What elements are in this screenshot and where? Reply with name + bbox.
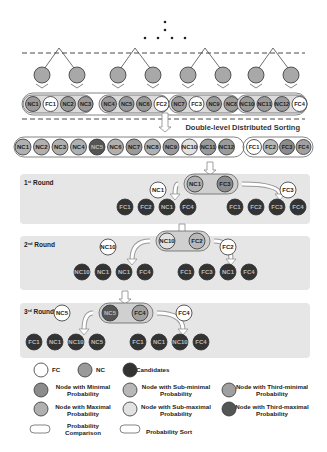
svg-text:NC5: NC5: [91, 339, 104, 345]
candidate-node: FC2: [248, 199, 264, 215]
svg-text:NC3: NC3: [80, 101, 91, 107]
svg-text:FC4: FC4: [134, 310, 146, 316]
tree-node: [69, 67, 85, 83]
svg-text:FC3: FC3: [201, 269, 213, 275]
candidate-node: FC4: [193, 334, 209, 350]
tree-edge: [188, 48, 223, 72]
sorted-node-nc5: NC5: [89, 139, 105, 155]
tree-node: [248, 67, 264, 83]
compare-node: NC10: [159, 233, 175, 249]
legend-comparison-label: Probability Comparison: [60, 422, 106, 437]
svg-text:FC2: FC2: [250, 204, 262, 210]
svg-text:NC2: NC2: [35, 144, 48, 150]
top-node-nc2: NC2: [61, 97, 76, 112]
candidate-node: FC4: [137, 264, 153, 280]
svg-text:NC1: NC1: [161, 204, 174, 210]
legend-comparison-icon: [30, 425, 50, 433]
svg-text:NC1: NC1: [27, 101, 38, 107]
top-node-nc7: NC7: [172, 97, 187, 112]
left-pick-node: NC5: [54, 305, 70, 321]
sorted-node-nc8: NC8: [145, 139, 161, 155]
svg-text:NC1: NC1: [118, 269, 131, 275]
top-node-fc2: FC2: [154, 97, 169, 112]
svg-text:FC4: FC4: [182, 204, 194, 210]
svg-text:NC2: NC2: [62, 101, 73, 107]
svg-text:NC10: NC10: [100, 244, 116, 250]
sorted-node-nc1: NC1: [15, 139, 31, 155]
candidate-node: FC3: [199, 264, 215, 280]
svg-text:NC5: NC5: [91, 144, 104, 150]
svg-text:FC1: FC1: [229, 204, 241, 210]
svg-text:NC1: NC1: [153, 339, 166, 345]
sorted-node-fc3: FC3: [280, 140, 295, 155]
svg-text:NC5: NC5: [104, 310, 117, 316]
svg-text:NC10: NC10: [68, 339, 84, 345]
svg-text:NC10: NC10: [74, 269, 90, 275]
compare-node: FC4: [132, 305, 148, 321]
svg-text:NC6: NC6: [109, 144, 122, 150]
right-pick-node: FC3: [280, 182, 296, 198]
svg-text:FC4: FC4: [243, 269, 255, 275]
top-node-nc1: NC1: [26, 97, 41, 112]
svg-text:FC4: FC4: [298, 144, 309, 150]
svg-text:FC4: FC4: [294, 101, 305, 107]
svg-text:FC3: FC3: [271, 204, 283, 210]
svg-text:NC4: NC4: [72, 144, 85, 150]
candidate-node: FC1: [178, 264, 194, 280]
left-pick-node: NC1: [150, 182, 166, 198]
legend-submax-label: Node with Sub-maximal Probability: [138, 403, 214, 418]
svg-text:FC4: FC4: [195, 339, 207, 345]
svg-text:NC11: NC11: [257, 101, 271, 107]
legend-submin-icon: [123, 383, 137, 397]
svg-text:NC4: NC4: [103, 101, 115, 107]
compare-node: NC5: [102, 305, 118, 321]
candidate-node: FC1: [227, 199, 243, 215]
sorted-node-fc2: FC2: [263, 140, 278, 155]
candidate-node: FC2: [138, 199, 154, 215]
candidate-node: NC10: [74, 264, 90, 280]
candidate-node: FC4: [290, 199, 306, 215]
top-node-nc9: NC9: [207, 97, 222, 112]
tree-node: [110, 67, 126, 83]
legend-candidates-label: Candidates: [136, 366, 169, 373]
svg-text:NC10: NC10: [172, 339, 188, 345]
ellipsis-dot: [144, 37, 147, 40]
candidate-node: NC1: [159, 199, 175, 215]
candidate-node: FC1: [130, 334, 146, 350]
svg-text:FC2: FC2: [265, 144, 276, 150]
legend-max-label: Node with Maximal Probability: [48, 403, 118, 418]
svg-text:FC1: FC1: [180, 269, 192, 275]
compare-node: FC3: [217, 176, 233, 192]
round-down-arrow-icon: [204, 162, 216, 175]
tree-node: [180, 67, 196, 83]
legend-fc-icon: [34, 363, 48, 377]
svg-text:NC6: NC6: [138, 101, 149, 107]
candidate-node: NC1: [220, 264, 236, 280]
svg-text:FC1: FC1: [119, 204, 131, 210]
top-node-fc4: FC4: [292, 97, 307, 112]
svg-text:FC1: FC1: [45, 101, 56, 107]
sorted-node-nc10: NC10: [182, 139, 198, 155]
top-node-nc6: NC6: [137, 97, 152, 112]
right-pick-node: FC4: [176, 305, 192, 321]
compare-node: NC1: [187, 176, 203, 192]
candidate-node: NC1: [95, 264, 111, 280]
svg-text:NC1: NC1: [222, 269, 235, 275]
legend-submax-icon: [123, 402, 137, 416]
svg-text:NC7: NC7: [128, 144, 141, 150]
svg-text:NC5: NC5: [121, 101, 132, 107]
svg-text:NC10: NC10: [240, 101, 254, 107]
svg-text:NC9: NC9: [208, 101, 219, 107]
legend-submin-label: Node with Sub-minimal Probability: [138, 383, 214, 398]
svg-text:FC1: FC1: [28, 339, 40, 345]
svg-text:NC12: NC12: [275, 101, 289, 107]
svg-text:FC2: FC2: [140, 204, 152, 210]
sorted-node-nc12: NC12: [219, 139, 235, 155]
compare-node: FC2: [189, 233, 205, 249]
tree-edge: [256, 48, 291, 72]
tree-node: [215, 67, 231, 83]
right-pick-node: FC2: [220, 239, 236, 255]
legend-sort-label: Probability Sort: [146, 428, 192, 435]
svg-text:FC4: FC4: [139, 269, 151, 275]
svg-text:FC1: FC1: [132, 339, 144, 345]
